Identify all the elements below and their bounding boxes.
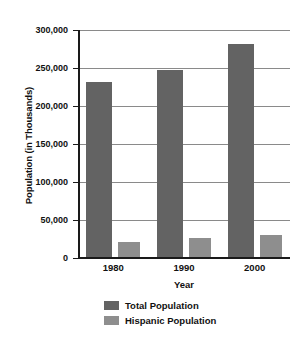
y-tick-label: 50,000 [10,215,68,225]
gridline [78,68,290,69]
x-tick-label-1980: 1980 [83,262,143,273]
legend-swatch-icon [104,301,119,310]
x-axis-title: Year [78,279,290,290]
bar-1980-hispanic [118,242,140,258]
population-bar-chart: Population (in Thousands) 050,000100,000… [0,0,308,345]
bar-2000-total [228,44,254,258]
bar-2000-hispanic [260,235,282,258]
gridline [78,30,290,31]
bar-1990-total [157,70,183,258]
y-axis-line [78,30,80,259]
legend-item: Hispanic Population [0,313,308,328]
y-tick-label: 100,000 [10,177,68,187]
legend-swatch-icon [104,316,119,325]
x-axis-line [78,257,290,259]
legend-label: Hispanic Population [125,315,216,326]
x-tick-label-1990: 1990 [154,262,214,273]
y-tick-label: 250,000 [10,63,68,73]
y-tick-label: 0 [10,253,68,263]
plot-area [78,30,290,258]
bar-1990-hispanic [189,238,211,258]
chart-legend: Total PopulationHispanic Population [0,298,308,328]
y-tick-label: 150,000 [10,139,68,149]
y-tick-label: 300,000 [10,25,68,35]
bar-1980-total [86,82,112,258]
legend-label: Total Population [125,300,199,311]
x-tick-label-2000: 2000 [225,262,285,273]
legend-item: Total Population [0,298,308,313]
y-tick-label: 200,000 [10,101,68,111]
